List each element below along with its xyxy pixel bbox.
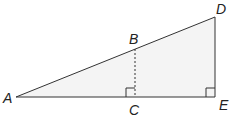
similar-triangles-diagram: A B C D E xyxy=(0,0,233,116)
label-a: A xyxy=(2,90,12,106)
label-d: D xyxy=(216,1,226,17)
label-c: C xyxy=(129,102,140,116)
label-b: B xyxy=(129,31,138,47)
label-e: E xyxy=(219,97,229,113)
